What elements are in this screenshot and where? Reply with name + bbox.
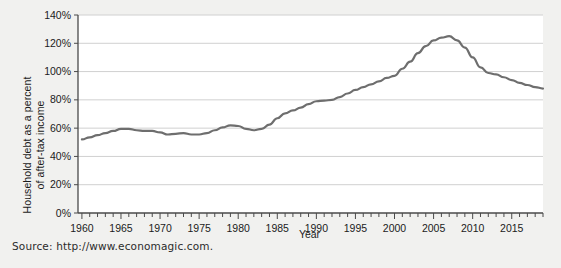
source-note: Source: http://www.economagic.com. <box>12 240 213 252</box>
y-tick-label-60%: 60% <box>50 122 71 134</box>
y-tick-label-40%: 40% <box>50 150 71 162</box>
y-tick-label-20%: 20% <box>50 178 71 190</box>
y-tick-label-140%: 140% <box>44 9 71 21</box>
y-tick-label-80%: 80% <box>50 93 71 105</box>
plot-area <box>78 15 543 213</box>
x-axis-title-label: Year <box>299 228 320 240</box>
y-tick-label-100%: 100% <box>44 65 71 77</box>
y-tick-label-120%: 120% <box>44 37 71 49</box>
chart-figure: Household debt as a percent of after-tax… <box>0 0 561 268</box>
y-tick-label-0%: 0% <box>56 207 71 219</box>
x-axis-title: Year <box>0 228 561 240</box>
